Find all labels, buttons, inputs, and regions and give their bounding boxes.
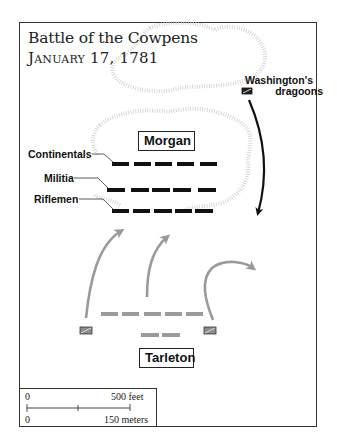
dragoons-label: Washington's dragoons <box>243 74 311 98</box>
british-reserve-line <box>141 333 180 337</box>
british-cavalry-left-icon <box>80 327 92 334</box>
continentals-line <box>112 162 217 166</box>
militia-label: Militia <box>44 172 74 184</box>
british-cavalry-right-icon <box>204 327 216 334</box>
scale-feet-zero: 0 <box>25 391 30 402</box>
british-advance-arrow-left <box>86 231 121 318</box>
map-title: Battle of the Cowpens January 17, 1781 <box>28 28 198 68</box>
tarleton-label: Tarleton <box>139 348 194 368</box>
continentals-label: Continentals <box>28 148 92 160</box>
riflemen-label: Riflemen <box>34 193 78 205</box>
scale-meters-max: 150 meters <box>104 414 148 425</box>
scale-meters-zero: 0 <box>25 414 30 425</box>
morgan-label: Morgan <box>138 131 195 151</box>
scale-bar: 0 500 feet 0 150 meters <box>19 388 157 427</box>
date-line: January 17, 1781 <box>28 48 198 68</box>
british-advance-arrow-center <box>147 237 167 297</box>
hill-contour-lower <box>93 109 250 210</box>
british-advance-arrow-right <box>205 262 253 320</box>
label-leader-lines <box>74 154 113 209</box>
dragoons-label-line2: dragoons <box>255 85 323 97</box>
militia-line <box>107 188 216 192</box>
scale-feet-max: 500 feet <box>111 391 144 402</box>
title-line: Battle of the Cowpens <box>28 28 198 48</box>
riflemen-line <box>112 209 213 213</box>
dragoons-arrow <box>249 100 264 213</box>
british-front-line <box>101 312 203 316</box>
